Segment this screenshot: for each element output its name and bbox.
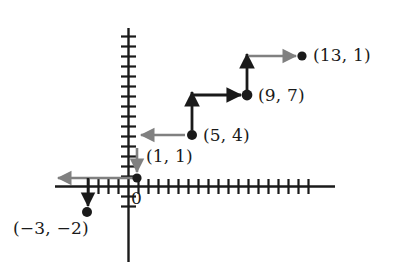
point-13-1: [297, 51, 306, 60]
point-neg3-neg2: [82, 207, 92, 217]
point-label-1-1: (1, 1): [146, 146, 193, 166]
coordinate-plane-diagram: (13, 1) (9, 7) (5, 4) (1, 1) (−3, −2) 0: [0, 0, 393, 269]
point-1-1: [132, 173, 141, 182]
axes-group: [55, 28, 335, 262]
point-label-13-1: (13, 1): [313, 45, 371, 65]
point-9-7: [242, 90, 253, 101]
point-label-neg3-neg2: (−3, −2): [13, 218, 89, 238]
point-label-5-4: (5, 4): [203, 125, 250, 145]
origin-label: 0: [131, 188, 142, 208]
point-label-9-7: (9, 7): [258, 85, 305, 105]
point-5-4: [187, 130, 197, 140]
